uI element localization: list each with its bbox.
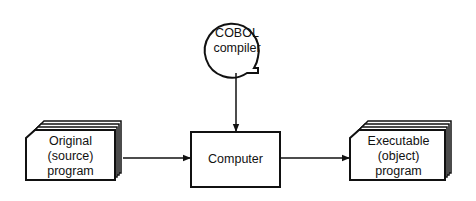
computer-label-text: Computer	[208, 152, 263, 166]
source-label-line-3: program	[26, 164, 115, 179]
object-label-line-1: Executable	[352, 134, 445, 149]
computer-label: Computer	[191, 152, 280, 167]
source-label-line-2: (source)	[26, 149, 115, 164]
object-label-line-2: (object)	[352, 149, 445, 164]
compiler-label-line-1: COBOL	[207, 26, 267, 41]
object-label-line-3: program	[352, 164, 445, 179]
source-label: Original (source) program	[26, 134, 115, 179]
object-label: Executable (object) program	[352, 134, 445, 179]
compiler-label-line-2: compiler	[207, 41, 267, 56]
compiler-label: COBOL compiler	[207, 26, 267, 56]
source-label-line-1: Original	[26, 134, 115, 149]
